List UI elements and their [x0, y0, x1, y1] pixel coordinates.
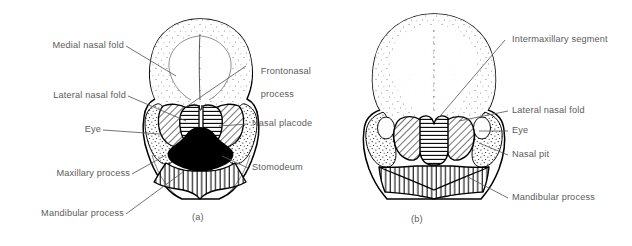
- label-lateral-nasal-fold-b: Lateral nasal fold: [512, 105, 585, 117]
- label-eye-b: Eye: [512, 125, 528, 137]
- panel-b-drawing: [363, 14, 504, 199]
- panel-a-drawing: [143, 19, 259, 199]
- label-frontonasal-process-line1: Frontonasal: [261, 66, 311, 76]
- caption-panel-b: (b): [411, 214, 423, 224]
- label-medial-nasal-fold: Medial nasal fold: [2, 40, 124, 52]
- panel-b-frontonasal-stipple: [373, 14, 496, 123]
- label-eye: Eye: [2, 124, 101, 136]
- label-nasal-pit: Nasal pit: [512, 149, 549, 161]
- label-lateral-nasal-fold: Lateral nasal fold: [2, 90, 126, 102]
- label-mandibular-process: Mandibular process: [2, 208, 124, 220]
- label-frontonasal-process-line2: process: [261, 89, 294, 99]
- embryo-face-figure: Medial nasal fold Lateral nasal fold Eye…: [0, 0, 632, 246]
- label-mandibular-process-b: Mandibular process: [512, 192, 595, 204]
- label-maxillary-process: Maxillary process: [2, 168, 130, 180]
- label-frontonasal-process: Frontonasal process: [250, 54, 311, 112]
- label-intermaxillary-segment: Intermaxillary segment: [512, 34, 608, 46]
- label-nasal-placode: Nasal placode: [252, 118, 312, 130]
- caption-panel-a: (a): [192, 212, 204, 222]
- panel-b-intermaxillary-segment: [420, 116, 448, 165]
- label-stomodeum: Stomodeum: [252, 162, 303, 174]
